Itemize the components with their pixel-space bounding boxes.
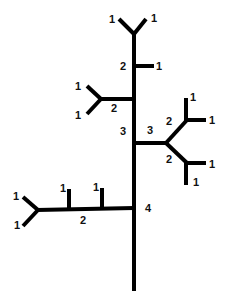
order-label: 1 [151, 12, 157, 24]
order-label: 1 [109, 13, 115, 25]
order-label: 1 [75, 80, 81, 92]
order-label: 2 [111, 102, 117, 114]
order-label: 1 [209, 114, 215, 126]
stream-order-diagram: 112111233211211411112 [0, 0, 229, 296]
order-label: 4 [145, 202, 152, 214]
tree-segments [23, 19, 206, 291]
segment-upper-left-fork-down [87, 99, 101, 114]
segment-upper-left-fork-up [87, 86, 101, 99]
order-label: 2 [166, 115, 172, 127]
order-label: 3 [147, 124, 153, 136]
order-label: 2 [120, 60, 126, 72]
order-label: 1 [209, 158, 215, 170]
segment-top-fork-right [134, 19, 146, 34]
order-label: 1 [193, 176, 199, 188]
order-label: 1 [60, 182, 66, 194]
order-label: 1 [190, 91, 196, 103]
order-label: 1 [75, 109, 81, 121]
order-label: 1 [93, 181, 99, 193]
order-label: 1 [14, 219, 20, 231]
order-label: 3 [120, 125, 126, 137]
segment-lower-left-fork-down [23, 210, 38, 226]
order-label: 2 [80, 214, 86, 226]
segment-lower-left-fork-up [23, 197, 38, 210]
order-label: 2 [166, 153, 172, 165]
order-label: 1 [156, 60, 162, 72]
segment-lower-left-branch [37, 208, 134, 210]
order-label: 1 [13, 190, 19, 202]
segment-top-fork-left [119, 19, 134, 34]
